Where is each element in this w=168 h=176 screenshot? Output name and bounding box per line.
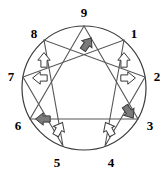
point-label-2: 2 xyxy=(154,70,161,83)
arrow-6-icon xyxy=(36,113,51,125)
point-label-6: 6 xyxy=(15,119,22,132)
point-label-9: 9 xyxy=(81,6,88,19)
point-label-1: 1 xyxy=(131,27,138,40)
enneagram-diagram: 9 1 2 3 4 5 6 7 8 xyxy=(0,0,168,176)
point-label-4: 4 xyxy=(108,156,115,169)
enneagram-canvas xyxy=(0,0,168,176)
arrow-2-icon xyxy=(121,72,136,84)
arrow-7-icon xyxy=(33,72,48,84)
point-label-7: 7 xyxy=(8,70,15,83)
point-label-5: 5 xyxy=(54,156,61,169)
point-label-3: 3 xyxy=(147,119,154,132)
point-label-8: 8 xyxy=(31,27,38,40)
